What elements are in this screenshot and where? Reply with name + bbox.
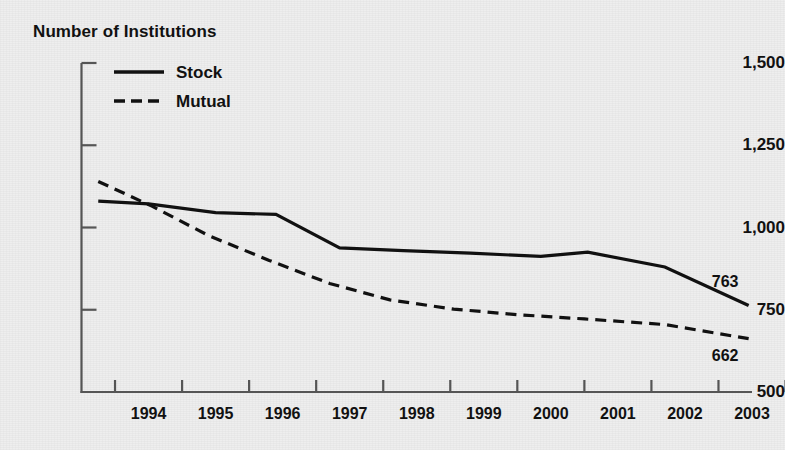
legend-label-stock: Stock: [176, 64, 222, 81]
legend-item-mutual: Mutual: [113, 91, 231, 111]
y-axis-tick-label: 1,000: [713, 218, 785, 238]
y-axis-tick-label: 750: [713, 300, 785, 320]
line-chart: Number of Institutions 1,5001,2501,00075…: [0, 0, 785, 450]
chart-series: [98, 181, 748, 338]
chart-legend: Stock Mutual: [113, 62, 231, 111]
x-axis-tick-label: 2001: [600, 405, 636, 423]
legend-swatch-dashed-icon: [113, 95, 165, 107]
chart-title: Number of Institutions: [33, 22, 217, 42]
legend-label-mutual: Mutual: [176, 93, 231, 110]
x-axis-tick-label: 1995: [198, 405, 234, 423]
series-value-label-stock: 763: [712, 273, 739, 291]
legend-swatch-solid-icon: [113, 66, 165, 78]
legend-item-stock: Stock: [113, 62, 231, 82]
x-axis-tick-label: 1999: [466, 405, 502, 423]
y-axis-tick-label: 1,500: [713, 53, 785, 73]
x-axis-tick-label: 2000: [533, 405, 569, 423]
x-axis-tick-label: 2002: [667, 405, 703, 423]
chart-axes: [81, 63, 785, 393]
y-axis-tick-label: 1,250: [713, 135, 785, 155]
x-axis-tick-label: 2003: [734, 405, 770, 423]
x-axis-tick-label: 1996: [265, 405, 301, 423]
series-line-mutual: [98, 181, 748, 338]
x-axis-tick-label: 1994: [131, 405, 167, 423]
series-value-label-mutual: 662: [712, 347, 739, 365]
x-axis-tick-label: 1998: [399, 405, 435, 423]
x-axis-tick-label: 1997: [332, 405, 368, 423]
y-axis-tick-label: 500: [713, 382, 785, 402]
series-line-stock: [98, 201, 748, 305]
